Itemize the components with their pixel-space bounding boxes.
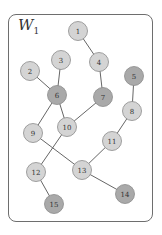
node-9: 9 [24,124,43,143]
node-label: 8 [130,108,134,116]
node-label: 14 [121,191,130,199]
node-label: 5 [132,73,136,81]
node-label: 4 [97,59,102,67]
node-label: 6 [55,92,60,100]
node-2: 2 [21,62,40,81]
node-7: 7 [94,88,113,107]
node-layer: 123456789101112131415 [21,22,144,214]
node-label: 9 [31,130,35,138]
node-10: 10 [58,118,77,137]
graph-canvas: 123456789101112131415 [0,0,162,235]
node-6: 6 [48,86,67,105]
node-4: 4 [90,53,109,72]
node-label: 7 [101,94,105,102]
node-14: 14 [116,185,135,204]
node-1: 1 [69,22,88,41]
node-3: 3 [52,51,71,70]
node-13: 13 [73,161,92,180]
node-label: 2 [28,68,32,76]
node-label: 11 [108,138,117,146]
node-label: 15 [50,201,59,209]
node-15: 15 [45,195,64,214]
node-label: 3 [59,57,63,65]
node-12: 12 [27,163,46,182]
node-label: 12 [32,169,41,177]
node-11: 11 [103,132,122,151]
node-5: 5 [125,67,144,86]
node-8: 8 [123,102,142,121]
node-label: 1 [76,28,80,36]
node-label: 10 [63,124,72,132]
node-label: 13 [78,167,87,175]
